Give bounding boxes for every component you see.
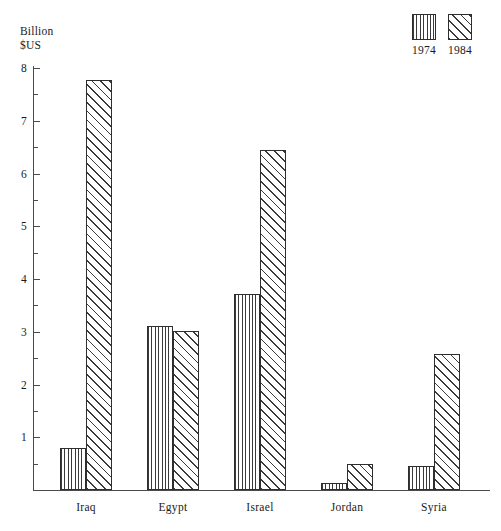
y-tick-major [34,279,40,280]
y-tick-minor [34,305,38,306]
x-tick-label-jordan: Jordan [307,501,387,513]
y-tick-minor [34,411,38,412]
y-axis-title-line1: Billion [20,24,53,38]
y-tick-minor [34,253,38,254]
bar-israel-1984 [260,150,286,490]
y-tick-label: 1 [11,431,27,443]
y-tick-label: 4 [11,273,27,285]
y-tick-major [34,385,40,386]
x-tick-label-egypt: Egypt [133,501,213,513]
y-tick-major [34,437,40,438]
y-tick-minor [34,147,38,148]
legend-label-1984: 1984 [445,44,475,57]
y-tick-major [34,174,40,175]
legend-swatch-1974 [412,14,436,40]
y-tick-major [34,332,40,333]
y-axis-line [33,66,34,490]
y-tick-label: 8 [11,62,27,74]
bar-egypt-1974 [147,326,173,490]
y-tick-minor [34,464,38,465]
x-tick-label-iraq: Iraq [46,501,126,513]
y-tick-label: 5 [11,220,27,232]
legend-swatch-1984 [448,14,472,40]
bar-egypt-1984 [173,331,199,490]
legend-label-1974: 1974 [409,44,439,57]
x-axis-line [33,490,490,491]
x-tick-label-israel: Israel [220,501,300,513]
y-tick-minor [34,94,38,95]
bar-jordan-1974 [321,483,347,490]
y-tick-major [34,68,40,69]
bar-iraq-1974 [60,448,86,490]
legend: 1974 1984 [408,12,478,56]
y-tick-label: 2 [11,379,27,391]
y-tick-minor [34,200,38,201]
y-tick-label: 7 [11,115,27,127]
y-tick-label: 6 [11,168,27,180]
bar-chart: Billion $US 87654321 IraqEgyptIsraelJord… [0,0,501,531]
y-tick-major [34,226,40,227]
bar-syria-1984 [434,354,460,490]
x-tick-label-syria: Syria [394,501,474,513]
y-axis-title-line2: $US [20,38,41,52]
bar-iraq-1984 [86,80,112,490]
bar-syria-1974 [408,466,434,490]
y-tick-minor [34,358,38,359]
bar-israel-1974 [234,294,260,490]
bar-jordan-1984 [347,464,373,490]
y-tick-major [34,121,40,122]
y-tick-label: 3 [11,326,27,338]
